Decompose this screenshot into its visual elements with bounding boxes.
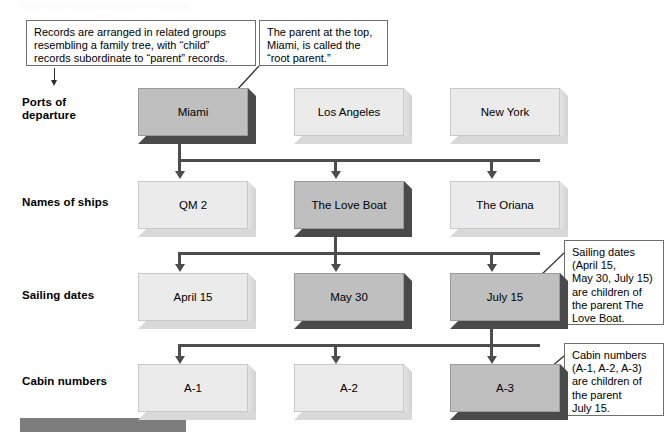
row-label-line: Cabin numbers xyxy=(22,375,107,388)
node-label: The Love Boat xyxy=(312,199,387,212)
node-label: April 15 xyxy=(174,291,213,304)
connector-dates-arrow-2 xyxy=(331,264,341,272)
callout-line: “root parent.” xyxy=(267,52,381,65)
callout-1-leader-arrow xyxy=(51,80,57,86)
diagram-canvas: Records are arranged in related groups r… xyxy=(0,0,670,435)
row-label-line: Sailing dates xyxy=(22,289,94,302)
node-front-face: New York xyxy=(450,88,560,136)
callout-line: Love Boat. xyxy=(572,312,657,325)
node-side-face xyxy=(404,364,412,412)
node-new-york[interactable]: New York xyxy=(450,88,568,144)
connector-ships-bus xyxy=(178,159,540,162)
row-label-ports-of-departure: Ports of departure xyxy=(22,96,76,122)
node-label: May 30 xyxy=(330,291,368,304)
callout-line: Cabin numbers xyxy=(572,349,657,362)
node-a-1[interactable]: A-1 xyxy=(138,364,256,420)
node-side-face xyxy=(560,88,568,136)
callout-line: (A-1, A-2, A-3) xyxy=(572,362,657,375)
node-label: The Oriana xyxy=(476,199,534,212)
node-side-face xyxy=(248,273,256,321)
node-label: Los Angeles xyxy=(318,106,381,119)
row-label-line: Names of ships xyxy=(22,196,108,209)
callout-line: are children of xyxy=(572,286,657,299)
connector-cabins-arrow-1 xyxy=(175,356,185,364)
node-front-face: A-2 xyxy=(294,364,404,412)
callout-line: The parent at the top, xyxy=(267,26,381,39)
callout-line: (April 15, xyxy=(572,259,657,272)
node-bottom-face xyxy=(294,229,412,237)
callout-line: resembling a family tree, with “child” xyxy=(34,39,249,52)
node-bottom-face xyxy=(450,321,568,329)
node-label: New York xyxy=(481,106,530,119)
callout-records-arrangement: Records are arranged in related groups r… xyxy=(26,20,256,66)
row-label-cabin-numbers: Cabin numbers xyxy=(22,375,107,388)
node-label: A-3 xyxy=(496,382,514,395)
connector-ships-arrow-2 xyxy=(331,171,341,179)
node-side-face xyxy=(248,181,256,229)
node-front-face: QM 2 xyxy=(138,181,248,229)
node-bottom-face xyxy=(294,321,412,329)
callout-line: the parent xyxy=(572,389,657,402)
row-label-names-of-ships: Names of ships xyxy=(22,196,108,209)
node-los-angeles[interactable]: Los Angeles xyxy=(294,88,412,144)
connector-dates-arrow-1 xyxy=(175,264,185,272)
callout-line: Sailing dates xyxy=(572,246,657,259)
node-label: A-1 xyxy=(184,382,202,395)
node-a-3[interactable]: A-3 xyxy=(450,364,568,420)
node-side-face xyxy=(560,273,568,321)
node-the-oriana[interactable]: The Oriana xyxy=(450,181,568,237)
node-label: QM 2 xyxy=(179,199,207,212)
node-bottom-face xyxy=(450,229,568,237)
node-bottom-face xyxy=(138,229,256,237)
node-front-face: A-1 xyxy=(138,364,248,412)
node-front-face: July 15 xyxy=(450,273,560,321)
node-may-30[interactable]: May 30 xyxy=(294,273,412,329)
node-side-face xyxy=(560,364,568,412)
node-a-2[interactable]: A-2 xyxy=(294,364,412,420)
node-bottom-face xyxy=(294,136,412,144)
node-side-face xyxy=(248,364,256,412)
node-bottom-face xyxy=(450,412,568,420)
node-bottom-face xyxy=(450,136,568,144)
row-label-line: Ports of xyxy=(22,96,76,109)
callout-line: Miami, is called the xyxy=(267,39,381,52)
node-label: A-2 xyxy=(340,382,358,395)
callout-line: July 15. xyxy=(572,402,657,415)
row-label-sailing-dates: Sailing dates xyxy=(22,289,94,302)
node-april-15[interactable]: April 15 xyxy=(138,273,256,329)
node-label: Miami xyxy=(178,106,209,119)
node-bottom-face xyxy=(138,321,256,329)
node-the-love-boat[interactable]: The Love Boat xyxy=(294,181,412,237)
node-side-face xyxy=(404,273,412,321)
node-front-face: May 30 xyxy=(294,273,404,321)
node-july-15[interactable]: July 15 xyxy=(450,273,568,329)
node-front-face: The Oriana xyxy=(450,181,560,229)
callout-cabin-numbers-children: Cabin numbers (A-1, A-2, A-3) are childr… xyxy=(564,343,664,416)
connector-dates-bus xyxy=(178,252,540,255)
connector-cabins-arrow-2 xyxy=(331,356,341,364)
node-bottom-face xyxy=(138,136,256,144)
row-label-line: departure xyxy=(22,109,76,122)
top-accent-bar xyxy=(20,2,190,9)
callout-line: the parent The xyxy=(572,299,657,312)
node-qm-2[interactable]: QM 2 xyxy=(138,181,256,237)
callout-root-parent: The parent at the top, Miami, is called … xyxy=(259,20,388,66)
node-front-face: Miami xyxy=(138,88,248,136)
node-bottom-face xyxy=(138,412,256,420)
bottom-accent-bar xyxy=(20,418,186,432)
connector-ships-arrow-1 xyxy=(175,171,185,179)
node-front-face: Los Angeles xyxy=(294,88,404,136)
callout-line: May 30, July 15) xyxy=(572,272,657,285)
node-miami[interactable]: Miami xyxy=(138,88,256,144)
node-bottom-face xyxy=(294,412,412,420)
node-front-face: April 15 xyxy=(138,273,248,321)
connector-dates-arrow-3 xyxy=(487,264,497,272)
connector-cabins-arrow-3 xyxy=(487,356,497,364)
callout-sailing-dates-children: Sailing dates (April 15, May 30, July 15… xyxy=(564,240,664,325)
node-front-face: A-3 xyxy=(450,364,560,412)
callout-line: records subordinate to “parent” records. xyxy=(34,52,249,65)
node-side-face xyxy=(404,88,412,136)
node-side-face xyxy=(248,88,256,136)
node-front-face: The Love Boat xyxy=(294,181,404,229)
callout-line: Records are arranged in related groups xyxy=(34,26,249,39)
